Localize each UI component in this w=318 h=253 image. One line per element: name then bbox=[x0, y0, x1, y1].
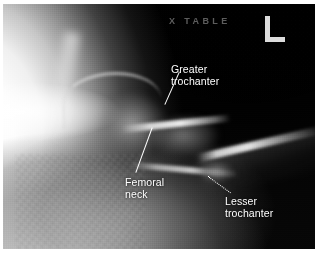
left-side-lead-marker-icon bbox=[265, 16, 285, 42]
annotation-label-femoral-neck: Femoral neck bbox=[125, 177, 164, 200]
annotation-label-greater-trochanter: Greater trochanter bbox=[171, 64, 219, 87]
annotation-label-lesser-trochanter: Lesser trochanter bbox=[225, 196, 273, 219]
left-marker-foot bbox=[265, 37, 285, 42]
radiograph-figure: X TABLE Greater trochanter Femoral neck … bbox=[0, 0, 318, 253]
xray-image: X TABLE Greater trochanter Femoral neck … bbox=[3, 4, 315, 249]
projection-marker-text: X TABLE bbox=[169, 16, 231, 26]
